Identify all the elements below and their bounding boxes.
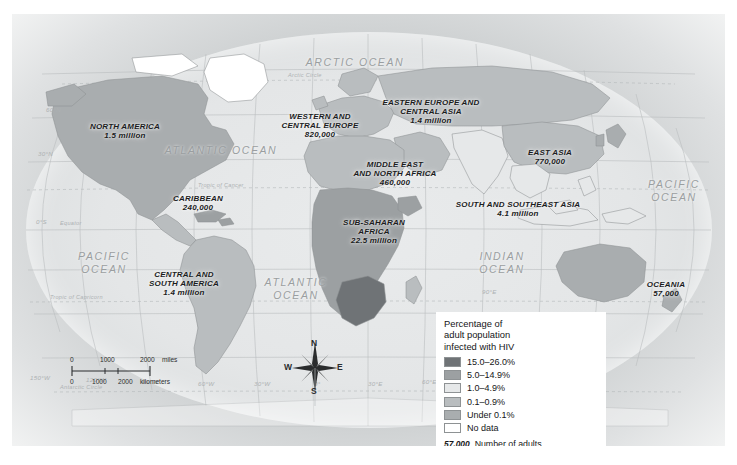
legend-note-text: Number of adults and children infected w… — [475, 439, 556, 446]
ocean-label-atlantic-ocean-south: ATLANTIC OCEAN — [246, 276, 346, 301]
legend-panel: Percentage of adult population infected … — [436, 312, 606, 446]
land-greenland — [204, 54, 268, 102]
region-label-south-southeast-asia: SOUTH AND SOUTHEAST ASIA 4.1 million — [442, 192, 594, 219]
graticule-label-arctic-circle: Arctic Circle — [288, 72, 322, 78]
region-name-sub-saharan-africa: SUB-SAHARAN AFRICA — [343, 218, 405, 236]
land-central-america — [152, 214, 196, 246]
legend-swatch-01-09 — [444, 397, 461, 407]
scale-bar-graphic — [70, 365, 210, 379]
region-value-east-asia: 770,000 — [535, 157, 565, 166]
compass-rose: N W E S — [284, 340, 346, 408]
legend-label-01-09: 0.1–0.9% — [467, 397, 505, 407]
scale-km-1000: 1000 — [92, 378, 107, 385]
land-japan — [606, 124, 626, 148]
legend-note: 57,000 Number of adults and children inf… — [444, 439, 599, 446]
region-label-sub-saharan-africa: SUB-SAHARAN AFRICA 22.5 million — [320, 210, 428, 246]
legend-title: Percentage of adult population infected … — [444, 318, 599, 352]
legend-row-15-26: 15.0–26.0% — [444, 355, 599, 368]
graticule-label-60n: 60°N — [46, 106, 61, 113]
region-value-south-southeast-asia: 4.1 million — [497, 209, 538, 218]
region-value-sub-saharan-africa: 22.5 million — [351, 236, 397, 245]
land-hispaniola — [218, 218, 234, 226]
legend-row-1-4: 1.0–4.9% — [444, 382, 599, 395]
region-name-western-central-europe: WESTERN AND CENTRAL EUROPE — [282, 112, 359, 130]
graticule-label-0s: 0°S — [36, 218, 47, 225]
region-value-north-america: 1.5 million — [104, 131, 145, 140]
legend-swatch-15-26 — [444, 357, 461, 367]
compass-label-north: N — [311, 338, 317, 348]
graticule-label-equator: Equator — [60, 220, 82, 226]
scale-miles-2000: 2000 — [140, 356, 155, 363]
region-value-caribbean: 240,000 — [183, 203, 213, 212]
scale-km-0: 0 — [70, 378, 74, 385]
ocean-label-arctic-ocean: ARCTIC OCEAN — [280, 56, 430, 69]
region-value-middle-east-north-africa: 460,000 — [380, 178, 410, 187]
scale-miles-1000: 1000 — [100, 356, 115, 363]
graticule-label-90e: 90°E — [482, 288, 497, 295]
legend-label-5-14: 5.0–14.9% — [467, 370, 510, 380]
legend-row-01-09: 0.1–0.9% — [444, 395, 599, 408]
scale-miles-0: 0 — [70, 356, 74, 363]
scale-km-2000: 2000 — [118, 378, 133, 385]
region-name-central-south-america: CENTRAL AND SOUTH AMERICA — [149, 270, 219, 288]
legend-label-15-26: 15.0–26.0% — [467, 357, 515, 367]
ocean-label-indian-ocean: INDIAN OCEAN — [452, 250, 552, 275]
region-name-eastern-europe-central-asia: EASTERN EUROPE AND CENTRAL ASIA — [382, 98, 479, 116]
region-label-caribbean: CARIBBEAN 240,000 — [152, 186, 244, 213]
land-south-asia — [452, 130, 508, 194]
legend-row-no-data: No data — [444, 421, 599, 434]
graticule-label-30n: 30°N — [38, 150, 53, 157]
legend-label-1-4: 1.0–4.9% — [467, 383, 505, 393]
graticule-label-150w: 150°W — [30, 374, 50, 381]
hiv-prevalence-world-map: ARCTIC OCEAN ATLANTIC OCEAN ATLANTIC OCE… — [0, 0, 737, 465]
land-new-guinea — [602, 208, 646, 224]
graticule-label-30e: 30°E — [368, 380, 383, 387]
legend-swatch-1-4 — [444, 383, 461, 393]
scale-bar: 0 1000 2000 miles 0 1000 2000 kilometers — [70, 352, 210, 392]
region-name-north-america: NORTH AMERICA — [90, 122, 160, 131]
legend-label-no-data: No data — [467, 423, 499, 433]
ocean-label-atlantic-ocean-north: ATLANTIC OCEAN — [146, 144, 296, 157]
legend-row-under-01: Under 0.1% — [444, 408, 599, 421]
land-korea — [596, 134, 604, 146]
legend-row-5-14: 5.0–14.9% — [444, 369, 599, 382]
graticule-label-60e: 60°E — [422, 378, 437, 385]
compass-label-west: W — [284, 362, 292, 372]
region-label-eastern-europe-central-asia: EASTERN EUROPE AND CENTRAL ASIA 1.4 mill… — [370, 90, 492, 126]
legend-label-under-01: Under 0.1% — [467, 410, 515, 420]
region-name-caribbean: CARIBBEAN — [173, 194, 223, 203]
ocean-label-pacific-ocean-east: PACIFIC OCEAN — [624, 178, 724, 203]
region-value-oceania: 57,000 — [653, 289, 679, 298]
graticule-label-tropic-of-capricorn: Tropic of Capricorn — [50, 294, 103, 300]
region-name-oceania: OCEANIA — [647, 280, 685, 289]
region-label-middle-east-north-africa: MIDDLE EAST AND NORTH AFRICA 460,000 — [334, 152, 456, 188]
region-name-east-asia: EAST ASIA — [528, 148, 572, 157]
scale-miles-unit: miles — [162, 356, 177, 363]
compass-star-icon — [284, 340, 346, 408]
region-value-western-central-europe: 820,000 — [305, 130, 335, 139]
compass-label-east: E — [337, 362, 343, 372]
land-madagascar — [406, 276, 422, 304]
legend-swatch-5-14 — [444, 370, 461, 380]
region-label-oceania: OCEANIA 57,000 — [620, 272, 712, 299]
graticule-label-30w: 30°W — [254, 380, 270, 387]
region-label-western-central-europe: WESTERN AND CENTRAL EUROPE 820,000 — [266, 104, 374, 140]
region-label-north-america: NORTH AMERICA 1.5 million — [70, 114, 180, 141]
land-arctic-islands — [132, 54, 198, 76]
legend-swatch-no-data — [444, 423, 461, 433]
map-plate: ARCTIC OCEAN ATLANTIC OCEAN ATLANTIC OCE… — [12, 14, 725, 446]
region-name-south-southeast-asia: SOUTH AND SOUTHEAST ASIA — [456, 200, 581, 209]
region-name-middle-east-north-africa: MIDDLE EAST AND NORTH AFRICA — [353, 160, 436, 178]
region-value-eastern-europe-central-asia: 1.4 million — [410, 116, 451, 125]
compass-label-south: S — [311, 386, 317, 396]
scale-km-unit: kilometers — [140, 378, 170, 385]
legend-swatch-under-01 — [444, 410, 461, 420]
legend-note-number: 57,000 — [444, 439, 470, 446]
region-label-central-south-america: CENTRAL AND SOUTH AMERICA 1.4 million — [128, 262, 240, 298]
region-label-east-asia: EAST ASIA 770,000 — [504, 140, 596, 167]
region-value-central-south-america: 1.4 million — [163, 288, 204, 297]
